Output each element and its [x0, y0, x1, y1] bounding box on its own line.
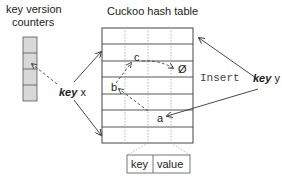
table-title: Cuckoo hash table — [107, 6, 198, 17]
key-x-arrow-down — [74, 100, 101, 135]
entry-value-label: value — [157, 159, 183, 170]
a-to-b-arrow — [119, 89, 148, 111]
key-y-var: y — [271, 72, 280, 84]
key-x-arrow-up — [74, 52, 101, 82]
node-b: b — [111, 82, 117, 93]
empty-slot: Ø — [178, 64, 187, 75]
key-y-label: key y — [253, 73, 280, 84]
key-x-keyword: key — [59, 86, 77, 98]
counters-title-line1: key version — [6, 4, 62, 15]
key-x-label: key x — [59, 87, 86, 98]
key-y-keyword: key — [253, 72, 271, 84]
counters-title-line2: counters — [12, 17, 54, 28]
b-to-c-arrow — [116, 63, 131, 83]
node-c: c — [134, 52, 140, 63]
entry-key-label: key — [131, 159, 148, 170]
key-x-var: x — [77, 86, 86, 98]
node-a: a — [157, 113, 163, 124]
c-to-empty-arrow — [142, 61, 173, 68]
key-y-arrow-to-a — [167, 89, 258, 116]
insert-label: Insert — [200, 73, 240, 84]
version-counters — [23, 37, 37, 101]
